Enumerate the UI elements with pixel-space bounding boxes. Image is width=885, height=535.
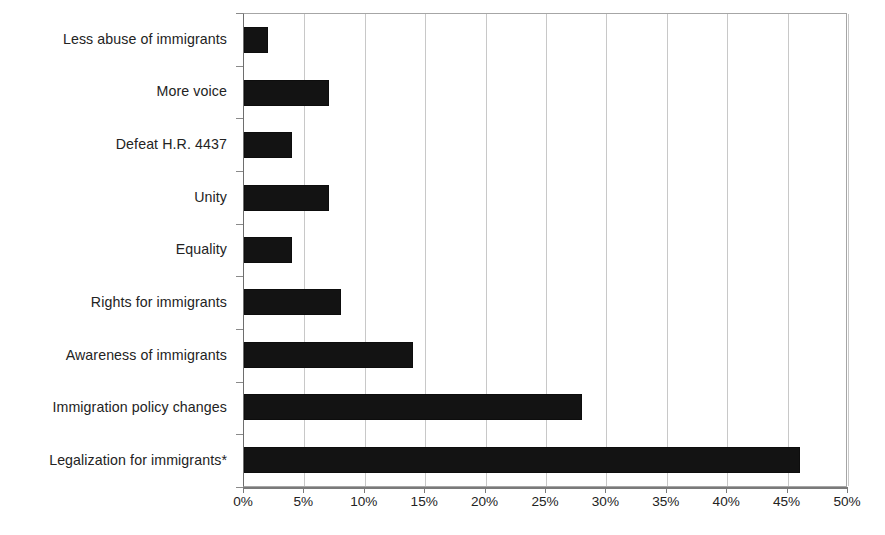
- category-label: Legalization for immigrants*: [0, 434, 236, 487]
- bar: [244, 80, 329, 106]
- y-axis-tick: [236, 118, 243, 119]
- x-axis-tick: [726, 487, 727, 493]
- x-axis-tick-label: 20%: [471, 494, 498, 509]
- y-axis-tick: [236, 224, 243, 225]
- bar: [244, 394, 582, 420]
- y-axis-tick: [236, 382, 243, 383]
- x-axis-tick-label: 10%: [350, 494, 377, 509]
- x-axis-tick: [605, 487, 606, 493]
- x-axis-tick: [303, 487, 304, 493]
- x-axis-tick: [666, 487, 667, 493]
- x-axis-tick: [364, 487, 365, 493]
- y-axis-tick: [236, 13, 243, 14]
- x-axis-tick-label: 35%: [652, 494, 679, 509]
- category-label: Rights for immigrants: [0, 276, 236, 329]
- category-label: Less abuse of immigrants: [0, 13, 236, 66]
- x-axis-tick-label: 5%: [294, 494, 314, 509]
- bar-chart: Less abuse of immigrantsMore voiceDefeat…: [0, 0, 885, 535]
- bar-band: [244, 14, 846, 66]
- x-axis-tick: [787, 487, 788, 493]
- x-axis-tick-label: 45%: [773, 494, 800, 509]
- x-axis-tick-label: 40%: [713, 494, 740, 509]
- y-axis-tick: [236, 276, 243, 277]
- bar-band: [244, 329, 846, 381]
- x-axis-tick: [243, 487, 244, 493]
- bar: [244, 185, 329, 211]
- x-axis-tick-labels: 0%5%10%15%20%25%30%35%40%45%50%: [243, 494, 847, 518]
- category-axis: Less abuse of immigrantsMore voiceDefeat…: [0, 13, 236, 487]
- category-label: More voice: [0, 66, 236, 119]
- category-label: Immigration policy changes: [0, 382, 236, 435]
- bar-band: [244, 66, 846, 118]
- bars-layer: [244, 14, 846, 486]
- bar-band: [244, 381, 846, 433]
- bar-band: [244, 224, 846, 276]
- x-axis-tick-label: 0%: [233, 494, 253, 509]
- bar-band: [244, 119, 846, 171]
- x-axis-tick: [545, 487, 546, 493]
- x-axis-tick-label: 15%: [411, 494, 438, 509]
- x-axis-tick: [424, 487, 425, 493]
- category-label: Equality: [0, 224, 236, 277]
- category-label: Defeat H.R. 4437: [0, 118, 236, 171]
- x-axis-tick-label: 50%: [833, 494, 860, 509]
- x-axis-tick: [847, 487, 848, 493]
- y-axis-tick: [236, 487, 243, 488]
- category-label: Unity: [0, 171, 236, 224]
- x-axis-tick-label: 25%: [531, 494, 558, 509]
- bar: [244, 342, 413, 368]
- bar-band: [244, 434, 846, 486]
- y-axis-tick: [236, 434, 243, 435]
- y-axis-tick: [236, 171, 243, 172]
- gridline: [848, 14, 849, 486]
- bar: [244, 289, 341, 315]
- x-axis-tick: [485, 487, 486, 493]
- bar: [244, 237, 292, 263]
- bar: [244, 27, 268, 53]
- y-axis-tick: [236, 66, 243, 67]
- y-axis-tick: [236, 329, 243, 330]
- plot-area: [243, 13, 847, 487]
- category-label: Awareness of immigrants: [0, 329, 236, 382]
- x-axis-tick-label: 30%: [592, 494, 619, 509]
- bar: [244, 132, 292, 158]
- bar-band: [244, 276, 846, 328]
- bar: [244, 447, 800, 473]
- bar-band: [244, 171, 846, 223]
